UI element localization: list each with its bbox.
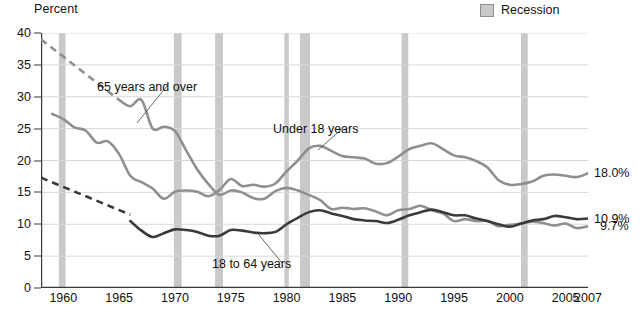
x-tick-label: 1985 xyxy=(329,291,357,305)
x-tick-label: 1980 xyxy=(273,291,301,305)
y-axis-title: Percent xyxy=(34,2,78,16)
x-axis: 1960196519701975198019851990199520002005… xyxy=(0,291,642,313)
y-tick-mark xyxy=(34,256,41,257)
chart-canvas xyxy=(41,33,588,288)
end-value-labels: 18.0%10.9%9.7% xyxy=(594,0,642,319)
y-tick-label: 15 xyxy=(17,185,31,199)
y-tick-label: 20 xyxy=(17,154,31,168)
series-dashed-18-to-64-years xyxy=(41,178,130,215)
y-tick-label: 25 xyxy=(17,122,31,136)
y-tick-mark xyxy=(34,64,41,65)
y-axis: 4035302520151050 xyxy=(0,33,41,288)
plot-area: 65 years and overUnder 18 years18 to 64 … xyxy=(41,33,588,288)
y-tick-mark xyxy=(34,96,41,97)
series-annotation: 18 to 64 years xyxy=(212,257,291,271)
y-tick-label: 35 xyxy=(17,58,31,72)
y-tick-label: 10 xyxy=(17,217,31,231)
x-tick-label: 1975 xyxy=(217,291,245,305)
x-tick-label: 1995 xyxy=(440,291,468,305)
x-tick-label: 1960 xyxy=(49,291,77,305)
series-line-18-to-64-years xyxy=(130,210,588,237)
end-value-label: 18.0% xyxy=(594,166,629,180)
legend-label-recession: Recession xyxy=(501,3,559,17)
series-line-65-years-and-over xyxy=(119,99,588,228)
recession-swatch-icon xyxy=(480,4,494,17)
series-annotation: 65 years and over xyxy=(97,80,197,94)
x-tick-label: 2000 xyxy=(496,291,524,305)
x-tick-label: 1970 xyxy=(161,291,189,305)
y-tick-mark xyxy=(34,33,41,34)
y-tick-label: 30 xyxy=(17,90,31,104)
y-tick-label: 40 xyxy=(17,26,31,40)
y-tick-mark xyxy=(34,288,41,289)
legend: Recession xyxy=(480,3,559,17)
x-tick-label: 1965 xyxy=(105,291,133,305)
y-tick-mark xyxy=(34,160,41,161)
x-tick-label: 1990 xyxy=(384,291,412,305)
end-value-label: 9.7% xyxy=(600,219,629,233)
series-annotation: Under 18 years xyxy=(273,122,358,136)
y-tick-mark xyxy=(34,224,41,225)
y-tick-mark xyxy=(34,192,41,193)
chart-root: Percent Recession 4035302520151050 65 ye… xyxy=(0,0,642,319)
y-tick-label: 5 xyxy=(24,249,31,263)
y-tick-mark xyxy=(34,128,41,129)
